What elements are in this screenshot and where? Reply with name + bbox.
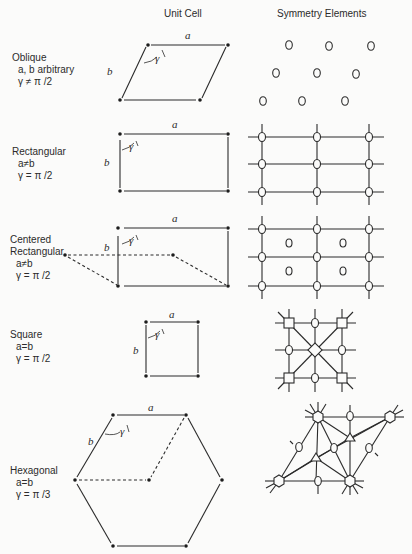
rectangular-symmetry	[248, 124, 384, 205]
svg-text:γ: γ	[129, 234, 134, 246]
svg-text:γ: γ	[120, 425, 125, 437]
lattice-diagram: a b γ a b γ a b γ a b γ a b γ	[0, 0, 412, 554]
gamma-arrows	[105, 50, 165, 435]
square-unit-cell	[146, 322, 198, 376]
svg-text:b: b	[104, 241, 110, 253]
svg-text:b: b	[107, 65, 113, 77]
oblique-unit-cell	[122, 45, 226, 100]
svg-text:γ: γ	[155, 328, 160, 340]
svg-text:a: a	[169, 308, 175, 320]
svg-text:a: a	[172, 118, 178, 130]
svg-text:γ: γ	[155, 52, 160, 64]
hexagonal-symmetry	[265, 402, 404, 495]
centered-rectangular-symmetry	[248, 216, 384, 299]
lattice-points	[63, 43, 230, 548]
svg-text:b: b	[133, 344, 139, 356]
svg-text:b: b	[88, 435, 94, 447]
svg-text:a: a	[185, 29, 191, 41]
square-symmetry	[275, 309, 356, 392]
svg-text:a: a	[148, 401, 154, 413]
cell-labels: a b γ a b γ a b γ a b γ a b γ	[88, 29, 191, 447]
centered-rectangular-unit-cell	[68, 228, 228, 286]
svg-text:γ: γ	[129, 140, 134, 152]
svg-text:a: a	[172, 212, 178, 224]
oblique-symmetry	[260, 41, 375, 106]
svg-text:b: b	[104, 156, 110, 168]
